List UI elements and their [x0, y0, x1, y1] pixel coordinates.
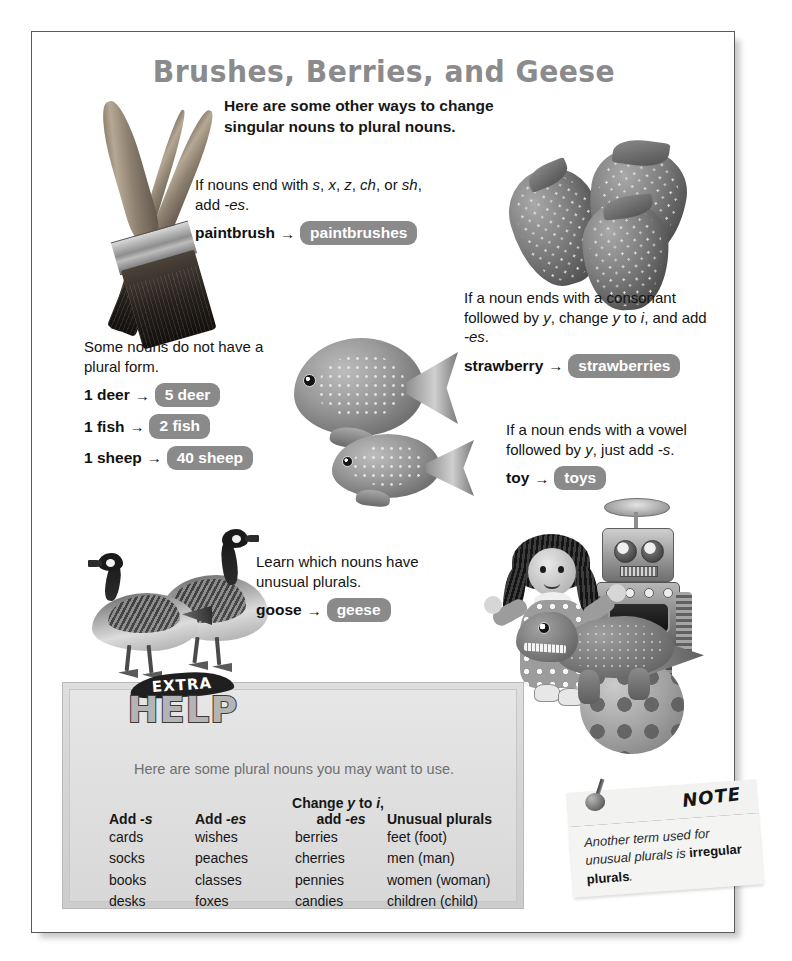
note-label: NOTE — [681, 783, 742, 811]
arrow-icon: → — [280, 226, 295, 241]
plural-word-pill: 40 sheep — [167, 446, 253, 470]
rule-text: Some nouns do not have a plural form. — [84, 337, 284, 376]
rule-block-consonant-y: If a noun ends with a consonant followed… — [464, 288, 714, 378]
table-cell: wishes — [195, 827, 295, 848]
rule-block-add-es: If nouns end with s, x, z, ch, or sh, ad… — [195, 175, 445, 245]
table-cell: foxes — [195, 891, 295, 912]
word-pair: 1 fish → 2 fish — [84, 414, 284, 438]
table-column-unusual-plurals: Unusual plurals feet (foot) men (man) wo… — [387, 791, 509, 912]
rule-text: If nouns end with s, x, z, ch, or sh, ad… — [195, 175, 445, 214]
column-header-label: Unusual plurals — [387, 811, 509, 827]
table-cell: socks — [109, 848, 195, 869]
plural-nouns-table: Add -s cards socks books desks Add -es w… — [109, 791, 509, 912]
plural-word-pill: strawberries — [568, 354, 680, 378]
singular-word: paintbrush — [195, 224, 275, 242]
table-cell: children (child) — [387, 891, 509, 912]
page-title: Brushes, Berries, and Geese — [53, 54, 715, 89]
strawberries-illustration — [511, 140, 697, 310]
word-pair: 1 deer → 5 deer — [84, 383, 284, 407]
plural-word-pill: geese — [327, 598, 391, 622]
singular-word: toy — [506, 469, 529, 487]
arrow-icon: → — [147, 450, 162, 465]
pushpin-icon — [585, 792, 613, 816]
plural-word-pill: paintbrushes — [300, 221, 417, 245]
table-cell: women (woman) — [387, 870, 509, 891]
column-header: Unusual plurals — [387, 791, 509, 827]
singular-word: 1 sheep — [84, 449, 142, 467]
rule-block-vowel-y: If a noun ends with a vowel followed by … — [506, 420, 696, 490]
word-pair: goose → geese — [256, 598, 456, 622]
arrow-icon: → — [135, 388, 150, 403]
rule-block-no-plural: Some nouns do not have a plural form. 1 … — [84, 337, 284, 470]
table-cell: books — [109, 870, 195, 891]
word-pair: 1 sheep → 40 sheep — [84, 446, 284, 470]
arrow-icon: → — [129, 419, 144, 434]
rule-text: If a noun ends with a vowel followed by … — [506, 420, 696, 459]
arrow-icon: → — [534, 471, 549, 486]
singular-word: goose — [256, 601, 302, 619]
rule-block-unusual-plurals: Learn which nouns have unusual plurals. … — [256, 552, 456, 622]
table-column-add-s: Add -s cards socks books desks — [109, 791, 195, 912]
table-cell: cards — [109, 827, 195, 848]
table-cell: feet (foot) — [387, 827, 509, 848]
table-cell: peaches — [195, 848, 295, 869]
word-pair: toy → toys — [506, 466, 696, 490]
table-cell: men (man) — [387, 848, 509, 869]
singular-word: 1 deer — [84, 386, 130, 404]
plural-word-pill: toys — [554, 466, 606, 490]
extra-help-lead-text: Here are some plural nouns you may want … — [63, 761, 525, 777]
arrow-icon: → — [307, 603, 322, 618]
singular-word: strawberry — [464, 357, 543, 375]
toys-illustration — [494, 492, 709, 752]
table-cell: cherries — [295, 848, 387, 869]
table-column-change-y-to-i: Change y to i, add -es berries cherries … — [295, 791, 387, 912]
column-header: Add -es — [195, 791, 295, 827]
arrow-icon: → — [548, 358, 563, 373]
table-cell: desks — [109, 891, 195, 912]
badge-help-label: HELP — [115, 690, 252, 730]
page-subtitle: Here are some other ways to change singu… — [224, 96, 554, 137]
word-pair: strawberry → strawberries — [464, 354, 714, 378]
rule-text: If a noun ends with a consonant followed… — [464, 288, 714, 347]
extra-help-badge: EXTRA HELP — [118, 673, 248, 735]
column-header: Change y to i, add -es — [295, 791, 387, 827]
extra-help-box: EXTRA HELP Here are some plural nouns yo… — [62, 682, 524, 909]
plural-word-pill: 2 fish — [149, 414, 209, 438]
plural-word-pill: 5 deer — [155, 383, 221, 407]
table-column-add-es: Add -es wishes peaches classes foxes — [195, 791, 295, 912]
column-header: Add -s — [109, 791, 195, 827]
table-cell: classes — [195, 870, 295, 891]
geese-illustration — [82, 527, 282, 677]
table-cell: berries — [295, 827, 387, 848]
singular-word: 1 fish — [84, 418, 124, 436]
word-pair: paintbrush → paintbrushes — [195, 221, 445, 245]
rule-text: Learn which nouns have unusual plurals. — [256, 552, 456, 591]
table-cell: pennies — [295, 870, 387, 891]
note-body-text: Another term used for unusual plurals is… — [569, 813, 764, 898]
table-cell: candies — [295, 891, 387, 912]
note-sticker: NOTE Another term used for unusual plura… — [566, 779, 763, 898]
